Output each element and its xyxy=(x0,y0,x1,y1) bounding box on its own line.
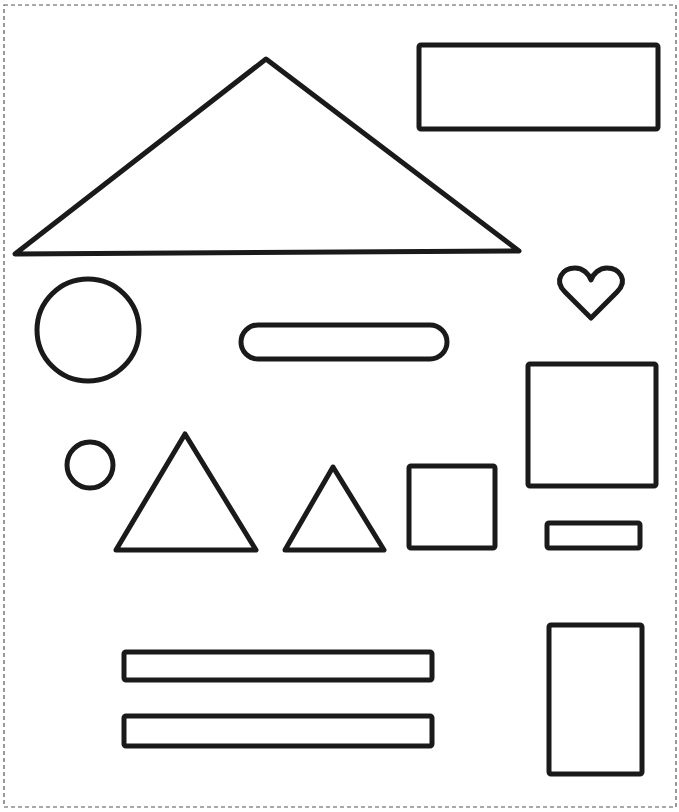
shapes-canvas xyxy=(0,0,679,812)
shapes-worksheet xyxy=(0,0,679,812)
large-triangle-shape xyxy=(15,59,519,254)
large-circle-shape xyxy=(37,279,139,381)
small-circle-shape xyxy=(67,442,113,488)
small-rectangle-shape xyxy=(547,523,640,548)
wide-rectangle-top-shape xyxy=(419,45,658,129)
long-bar-upper-shape xyxy=(124,652,432,680)
square-right-shape xyxy=(528,364,656,486)
tall-rectangle-shape xyxy=(549,625,642,774)
shapes-layer xyxy=(15,45,658,774)
small-triangle-shape xyxy=(285,467,384,550)
medium-triangle-shape xyxy=(116,434,256,550)
long-bar-lower-shape xyxy=(124,716,432,746)
heart-shape xyxy=(560,268,623,318)
small-square-shape xyxy=(409,466,495,548)
rounded-bar-shape xyxy=(241,325,447,359)
dashed-page-border xyxy=(4,5,676,807)
